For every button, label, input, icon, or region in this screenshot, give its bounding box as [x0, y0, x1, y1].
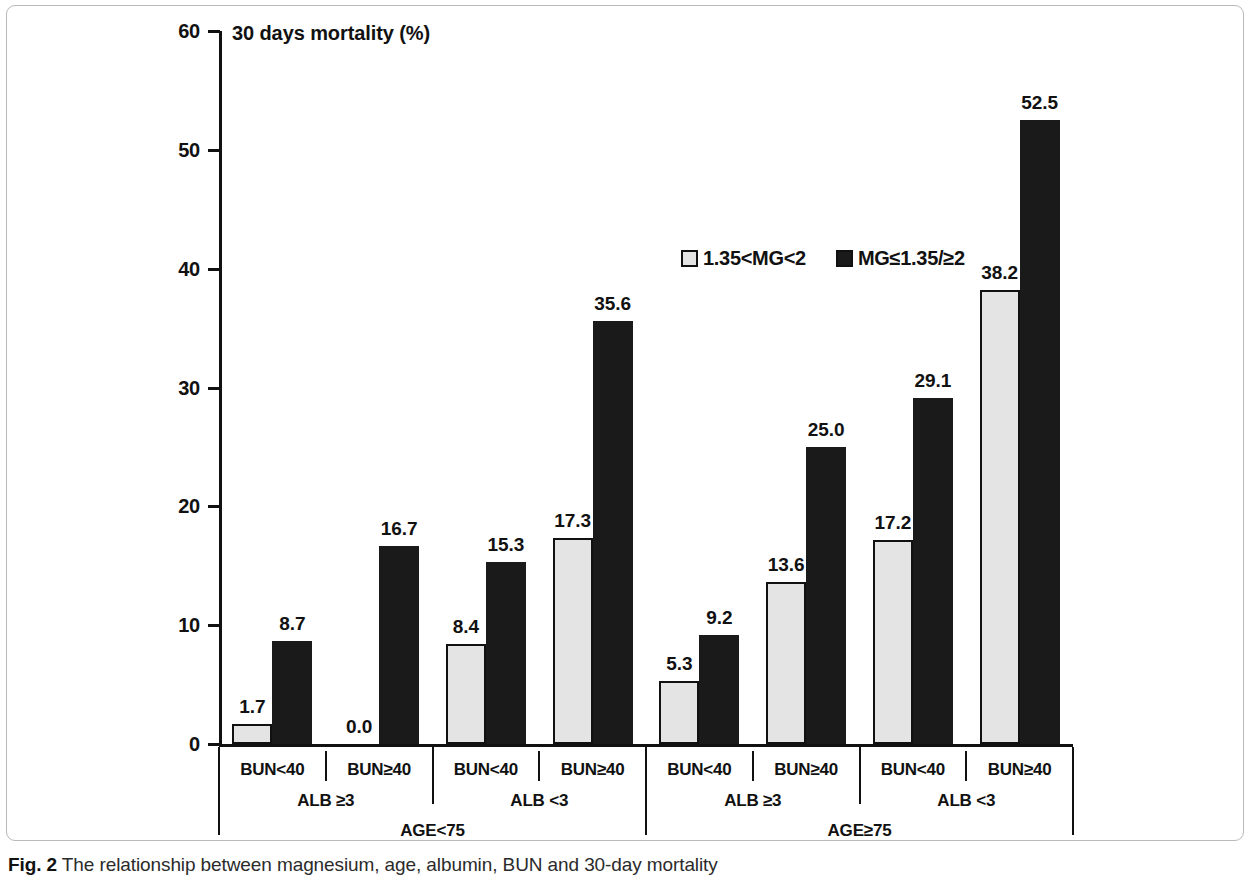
- x-tier2-label: ALB <3: [860, 792, 1074, 809]
- bar-dark-4: [699, 635, 739, 744]
- bar-value-label: 35.6: [581, 294, 645, 313]
- bar-light-6: [873, 540, 913, 744]
- bar-dark-1: [379, 546, 419, 744]
- bar-light-3: [553, 538, 593, 744]
- x-tier-separator: [538, 751, 540, 781]
- bar-light-5: [766, 582, 806, 744]
- x-tier1-label: BUN≥40: [326, 761, 433, 778]
- chart-legend: 1.35<MG<2 MG≤1.35/≥2: [681, 247, 965, 270]
- bar-dark-0: [272, 641, 312, 744]
- bar-value-label: 15.3: [474, 535, 538, 554]
- x-tier1-label: BUN≥40: [966, 761, 1073, 778]
- figure-page: 30 days mortality (%) 0102030405060 1.78…: [0, 0, 1250, 890]
- x-tier-separator: [965, 751, 967, 781]
- legend-item-dark: MG≤1.35/≥2: [836, 247, 965, 270]
- legend-item-light: 1.35<MG<2: [681, 247, 806, 270]
- x-tier2-label: ALB <3: [433, 792, 647, 809]
- bar-value-label: 25.0: [794, 420, 858, 439]
- x-tier3-label: AGE≥75: [646, 822, 1073, 839]
- x-tier3-label: AGE<75: [219, 822, 646, 839]
- x-tier1-label: BUN<40: [860, 761, 967, 778]
- figure-caption-number: Fig. 2: [8, 854, 57, 875]
- bar-dark-7: [1020, 120, 1060, 744]
- legend-label-light: 1.35<MG<2: [703, 247, 806, 270]
- legend-swatch-dark-icon: [836, 250, 853, 267]
- figure-caption: Fig. 2 The relationship between magnesiu…: [8, 853, 1238, 877]
- x-tier1-label: BUN≥40: [539, 761, 646, 778]
- bar-light-0: [232, 724, 272, 744]
- bar-light-4: [659, 681, 699, 744]
- x-tier2-label: ALB ≥3: [219, 792, 433, 809]
- bar-dark-5: [806, 447, 846, 744]
- bar-light-2: [446, 644, 486, 744]
- x-tier-separator: [752, 751, 754, 781]
- bar-dark-6: [913, 398, 953, 744]
- bar-dark-2: [486, 562, 526, 744]
- bar-value-label: 16.7: [367, 519, 431, 538]
- x-tier-separator: [325, 751, 327, 781]
- bar-dark-3: [593, 321, 633, 744]
- legend-label-dark: MG≤1.35/≥2: [858, 247, 965, 270]
- x-tier1-label: BUN≥40: [753, 761, 860, 778]
- bar-value-label: 52.5: [1008, 93, 1072, 112]
- bar-light-7: [980, 290, 1020, 744]
- chart-plot-area: 30 days mortality (%) 0102030405060 1.78…: [0, 0, 1250, 845]
- legend-swatch-light-icon: [681, 250, 698, 267]
- bar-value-label: 9.2: [687, 608, 751, 627]
- figure-caption-text: The relationship between magnesium, age,…: [57, 854, 718, 875]
- x-tier1-label: BUN<40: [219, 761, 326, 778]
- x-tier2-label: ALB ≥3: [646, 792, 860, 809]
- bars-layer: 1.78.70.016.78.415.317.335.65.39.213.625…: [0, 0, 1250, 747]
- x-tier1-label: BUN<40: [646, 761, 753, 778]
- bar-value-label: 8.7: [260, 614, 324, 633]
- bar-value-label: 29.1: [901, 371, 965, 390]
- x-tier1-label: BUN<40: [433, 761, 540, 778]
